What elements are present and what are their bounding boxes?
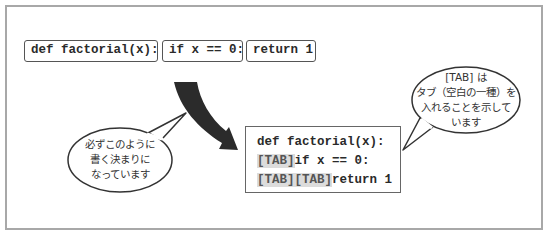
tab-marker: [TAB] (295, 173, 333, 187)
code-line-1: def factorial(x): (257, 133, 400, 152)
tab-marker: [TAB] (257, 173, 295, 187)
tab-marker: [TAB] (257, 154, 295, 168)
code-text: def factorial(x): (257, 135, 385, 149)
callout-line: 書く決まりに (70, 152, 170, 167)
code-line-2: [TAB]if x == 0: (257, 152, 400, 171)
callout-line: 必ずこのように (70, 137, 170, 152)
right-callout-text: [TAB] は タブ（空白の一種）を 入れることを示して います (412, 70, 520, 130)
callout-line: なっています (70, 167, 170, 182)
code-line-3: [TAB][TAB]return 1 (257, 171, 400, 190)
callout-line: います (412, 115, 520, 130)
code-text: if x == 0: (295, 154, 370, 168)
indented-code-block: def factorial(x): [TAB]if x == 0: [TAB][… (245, 126, 401, 193)
code-text: return 1 (332, 173, 392, 187)
callout-line: [TAB] は (412, 70, 520, 85)
left-callout-text: 必ずこのように 書く決まりに なっています (70, 137, 170, 182)
callout-line: タブ（空白の一種）を (412, 85, 520, 100)
callout-line: 入れることを示して (412, 100, 520, 115)
